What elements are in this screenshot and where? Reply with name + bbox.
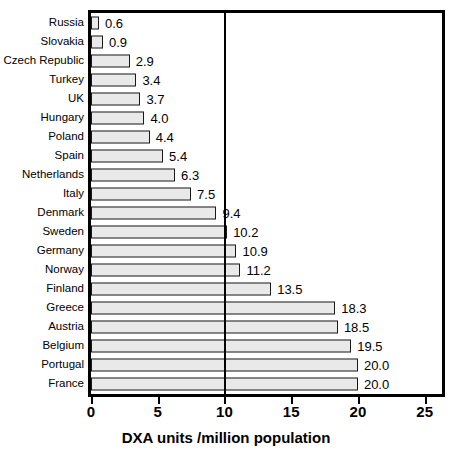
x-axis-title: DXA units /million population [0, 430, 452, 445]
bar-value-label: 3.7 [146, 92, 164, 105]
category-label: Austria [0, 321, 84, 333]
category-label: Greece [0, 302, 84, 314]
bar [91, 283, 271, 296]
category-label: Germany [0, 245, 84, 257]
category-label: Sweden [0, 226, 84, 238]
bar-value-label: 10.2 [233, 226, 258, 239]
bar-value-label: 0.6 [105, 16, 123, 29]
category-label: Russia [0, 17, 84, 29]
bar-row: 7.5 [91, 184, 442, 203]
bar-value-label: 4.4 [156, 130, 174, 143]
category-label: Turkey [0, 74, 84, 86]
bar-row: 4.0 [91, 108, 442, 127]
bar-value-label: 20.0 [364, 378, 389, 391]
category-label: Finland [0, 283, 84, 295]
bar-row: 3.4 [91, 70, 442, 89]
bar [91, 54, 130, 67]
bar-value-label: 4.0 [150, 111, 168, 124]
bar [91, 73, 136, 86]
category-label: Portugal [0, 359, 84, 371]
category-label: Netherlands [0, 169, 84, 181]
bar [91, 168, 175, 181]
bar-row: 2.9 [91, 51, 442, 70]
bar-row: 13.5 [91, 280, 442, 299]
bar-value-label: 20.0 [364, 359, 389, 372]
bar-rows: 0.60.92.93.43.74.04.45.46.37.59.410.210.… [91, 13, 442, 394]
bar [91, 340, 351, 353]
bar [91, 16, 99, 29]
bar-value-label: 18.3 [341, 302, 366, 315]
bar-row: 9.4 [91, 204, 442, 223]
bar-row: 0.9 [91, 32, 442, 51]
bar-row: 0.6 [91, 13, 442, 32]
bar [91, 302, 335, 315]
bar-row: 11.2 [91, 261, 442, 280]
bar-row: 19.5 [91, 337, 442, 356]
bar [91, 226, 227, 239]
x-axis-tick-labels: 0510152025 [88, 404, 445, 424]
x-tick-label: 10 [216, 404, 233, 419]
bar-row: 6.3 [91, 165, 442, 184]
category-label: Slovakia [0, 36, 84, 48]
bar-row: 4.4 [91, 127, 442, 146]
bar [91, 130, 150, 143]
bar [91, 187, 191, 200]
category-label: Hungary [0, 112, 84, 124]
bar-row: 10.9 [91, 242, 442, 261]
bar-value-label: 13.5 [277, 283, 302, 296]
bar [91, 321, 338, 334]
bar [91, 149, 163, 162]
bar [91, 92, 140, 105]
bar [91, 264, 240, 277]
category-label: France [0, 378, 84, 390]
category-label: Belgium [0, 340, 84, 352]
bar [91, 245, 236, 258]
bar [91, 111, 144, 124]
bar-value-label: 3.4 [142, 73, 160, 86]
bar-chart: RussiaSlovakiaCzech RepublicTurkeyUKHung… [0, 0, 452, 458]
category-label: Spain [0, 150, 84, 162]
category-axis-labels: RussiaSlovakiaCzech RepublicTurkeyUKHung… [0, 10, 84, 397]
bar-row: 10.2 [91, 223, 442, 242]
bar-row: 20.0 [91, 375, 442, 394]
bar-value-label: 18.5 [344, 321, 369, 334]
bar-value-label: 10.9 [242, 245, 267, 258]
x-tick-label: 20 [350, 404, 367, 419]
bar-row: 3.7 [91, 89, 442, 108]
x-tick-label: 5 [154, 404, 162, 419]
category-label: Italy [0, 188, 84, 200]
bar-row: 18.5 [91, 318, 442, 337]
bar-value-label: 19.5 [357, 340, 382, 353]
x-tick-label: 25 [416, 404, 433, 419]
bar-value-label: 6.3 [181, 168, 199, 181]
plot-area: 0.60.92.93.43.74.04.45.46.37.59.410.210.… [88, 10, 445, 397]
bar-value-label: 7.5 [197, 187, 215, 200]
bar-value-label: 5.4 [169, 149, 187, 162]
bar-value-label: 11.2 [246, 264, 270, 277]
x-tick-label: 15 [283, 404, 300, 419]
category-label: Poland [0, 131, 84, 143]
x-tick-label: 0 [87, 404, 95, 419]
category-label: Czech Republic [0, 55, 84, 67]
bar-row: 20.0 [91, 356, 442, 375]
bar-value-label: 2.9 [136, 54, 154, 67]
bar [91, 35, 103, 48]
bar-row: 18.3 [91, 299, 442, 318]
category-label: UK [0, 93, 84, 105]
category-label: Denmark [0, 207, 84, 219]
category-label: Norway [0, 264, 84, 276]
bar-value-label: 0.9 [109, 35, 127, 48]
bar [91, 207, 216, 220]
bar-row: 5.4 [91, 146, 442, 165]
gridline [224, 13, 226, 394]
